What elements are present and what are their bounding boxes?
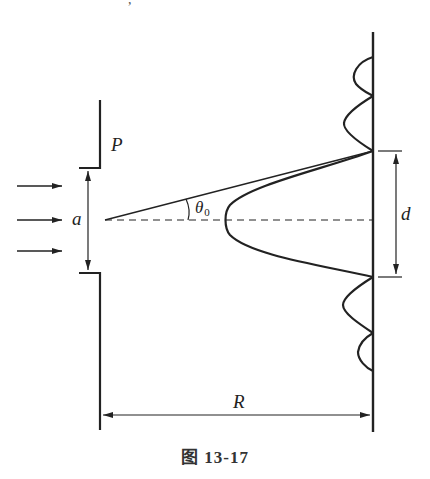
central-width-dimension — [378, 151, 402, 277]
plate-lower-half — [79, 273, 100, 430]
angle-label: θ0 — [195, 199, 210, 218]
intensity-pattern — [226, 57, 374, 371]
side-lobe-lower-1 — [343, 277, 373, 333]
incident-wave-arrows — [17, 186, 62, 251]
side-lobe-upper-1 — [344, 96, 373, 151]
slit-width-label: a — [72, 209, 82, 228]
slit-plate — [79, 100, 100, 430]
angle-arc — [186, 199, 189, 220]
diffraction-diagram: , — [0, 0, 430, 479]
plate-upper-half — [79, 100, 100, 168]
distance-label: R — [233, 392, 245, 411]
angle-subscript: 0 — [204, 206, 210, 218]
plate-label: P — [111, 135, 123, 154]
first-minimum-ray — [105, 151, 373, 220]
central-width-label: d — [401, 204, 411, 223]
side-lobe-lower-2 — [358, 333, 373, 371]
side-lobe-upper-2 — [354, 57, 373, 96]
diagram-svg — [0, 0, 430, 479]
angle-symbol: θ — [195, 198, 203, 217]
figure-caption: 图 13-17 — [0, 443, 430, 468]
